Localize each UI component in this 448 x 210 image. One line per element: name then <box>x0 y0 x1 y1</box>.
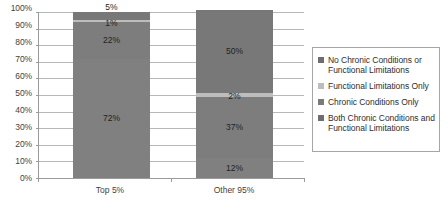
legend-item-label: Both Chronic Conditions and Functional L… <box>328 113 435 133</box>
legend-item-both[interactable]: Both Chronic Conditions and Functional L… <box>318 113 435 133</box>
y-tickmark <box>36 128 39 129</box>
stacked-bar-chart: 100% 90% 80% 70% 60% 50% 40% 30% 20% 10%… <box>0 0 448 210</box>
y-tickmark <box>36 161 39 162</box>
legend-swatch-icon <box>318 57 324 63</box>
y-tick-label: 30% <box>15 123 32 132</box>
y-tickmark <box>36 112 39 113</box>
legend-swatch-icon <box>318 83 324 89</box>
bar-other-95-percent[interactable]: 50% 2% 37% 12% <box>196 10 273 178</box>
y-tickmark <box>36 29 39 30</box>
bar-segment-both[interactable]: 12% <box>196 158 273 178</box>
y-tick-label: 40% <box>15 106 32 115</box>
y-tick-label: 0% <box>20 174 32 183</box>
plot-area: 5% 1% 22% 72% 50% 2% 37% 12% <box>38 12 304 178</box>
x-tickmark <box>38 178 39 182</box>
legend-swatch-icon <box>318 99 324 105</box>
bar-top-5-percent[interactable]: 5% 1% 22% 72% <box>73 12 150 178</box>
y-tick-label: 80% <box>15 38 32 47</box>
segment-label: 1% <box>105 19 117 28</box>
y-tickmark <box>36 45 39 46</box>
segment-label: 12% <box>226 164 243 173</box>
legend-item-label: No Chronic Conditions or Functional Limi… <box>328 55 422 75</box>
y-tick-label: 60% <box>15 72 32 81</box>
y-tick-label: 20% <box>15 140 32 149</box>
x-tickmark <box>304 178 305 182</box>
y-tickmark <box>36 95 39 96</box>
legend-swatch-icon <box>318 115 324 121</box>
segment-label: 72% <box>103 114 120 123</box>
legend: No Chronic Conditions or Functional Limi… <box>312 47 440 152</box>
y-tickmark <box>36 78 39 79</box>
legend-item-chronic-only[interactable]: Chronic Conditions Only <box>318 97 435 107</box>
segment-label: 2% <box>228 92 240 101</box>
legend-label-line2: Functional Limitations <box>328 123 409 133</box>
y-tick-label: 70% <box>15 55 32 64</box>
x-axis-label-top-5: Top 5% <box>96 185 124 195</box>
y-tick-label: 50% <box>15 89 32 98</box>
legend-label-line1: No Chronic Conditions or <box>328 55 422 65</box>
x-axis-label-other-95: Other 95% <box>214 185 255 195</box>
legend-label-line1: Both Chronic Conditions and <box>328 113 435 123</box>
y-tickmark <box>36 62 39 63</box>
legend-item-functional-only[interactable]: Functional Limitations Only <box>318 81 435 91</box>
legend-item-no-chronic[interactable]: No Chronic Conditions or Functional Limi… <box>318 55 435 75</box>
segment-label: 37% <box>226 123 243 132</box>
segment-label: 22% <box>103 36 120 45</box>
x-tickmark <box>171 178 172 182</box>
segment-label: 50% <box>226 47 243 56</box>
y-axis: 100% 90% 80% 70% 60% 50% 40% 30% 20% 10%… <box>0 8 36 178</box>
bar-segment-both[interactable]: 72% <box>73 59 150 179</box>
legend-item-label: Chronic Conditions Only <box>328 97 419 107</box>
y-tick-label: 90% <box>15 21 32 30</box>
y-tickmark <box>36 12 39 13</box>
segment-label: 5% <box>105 3 117 12</box>
y-tick-label: 10% <box>15 157 32 166</box>
y-tick-label: 100% <box>11 4 32 13</box>
bar-segment-no-chronic[interactable]: 50% <box>196 10 273 93</box>
legend-label-line2: Functional Limitations <box>328 65 409 75</box>
legend-item-label: Functional Limitations Only <box>328 81 429 91</box>
y-tickmark <box>36 145 39 146</box>
bar-segment-chronic-only[interactable]: 37% <box>196 97 273 158</box>
